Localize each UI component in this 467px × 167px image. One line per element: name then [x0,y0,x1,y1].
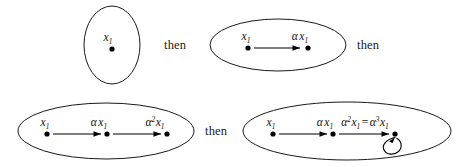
stage-3-ellipse [18,103,194,159]
stage-2-node-dot-2 [305,45,310,50]
stage-2-node-label-1: x1 [241,30,251,45]
stage-3-node-label-1: x1 [40,116,50,131]
orbit-diagram-figure: x1 x1 αx1 [0,0,467,167]
stage-3-node-label-2: αx1 [91,116,107,131]
stage-4-node-dot-3 [392,131,397,136]
stage-1-node-label-1: x1 [103,31,113,46]
stage-1-node-dot-1 [109,46,114,51]
stage-3-arrow-1 [53,131,101,137]
stage-2-ellipse [210,19,346,71]
diagram-canvas: x1 x1 αx1 [0,0,467,167]
stage-2-arrow-1 [254,45,300,51]
stage-4-ellipse [243,102,451,160]
stage-3-group: x1 αx1 α2x1 [18,103,194,159]
then-connector-1: then [164,38,186,53]
stage-4-node-label-3: α2x1=α3x1 [341,115,389,130]
stage-4-node-label-1: x1 [266,116,276,131]
stage-2-node-dot-1 [245,45,250,50]
stage-3-node-dot-1 [44,131,49,136]
stage-4-group: x1 αx1 α2x1=α3x1 [243,102,451,160]
stage-4-self-loop [383,137,401,154]
stage-4-node-dot-1 [270,131,275,136]
then-connector-2: then [357,38,379,53]
stage-4-node-dot-2 [330,131,335,136]
stage-4-node-label-2: αx1 [317,116,333,131]
stage-3-node-dot-3 [164,131,169,136]
stage-3-node-label-3: α2x1 [145,115,164,130]
stage-2-group: x1 αx1 [210,19,346,71]
stage-2-node-label-2: αx1 [292,30,308,45]
stage-4-arrow-2 [339,131,389,137]
then-connector-3: then [205,124,227,139]
stage-3-arrow-2 [113,131,161,137]
stage-1-group: x1 [84,6,140,84]
stage-4-arrow-1 [279,131,327,137]
stage-3-node-dot-2 [104,131,109,136]
